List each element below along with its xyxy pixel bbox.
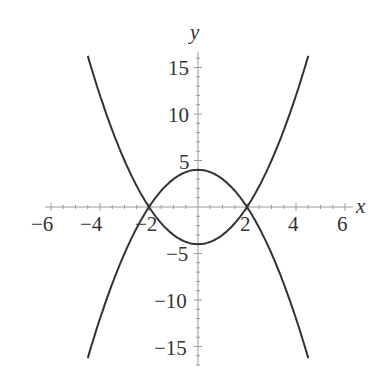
y-tick-label: 5: [179, 152, 190, 173]
plot-area: [0, 0, 381, 392]
y-tick-label: 10: [168, 105, 189, 126]
x-tick-label: 2: [240, 214, 251, 235]
x-tick-label: 6: [337, 214, 348, 235]
y-tick-label: −10: [154, 291, 187, 312]
y-tick-label: 15: [168, 58, 189, 79]
y-axis-label: y: [190, 22, 199, 43]
x-tick-label: −6: [31, 214, 53, 235]
x-tick-label: −2: [135, 214, 157, 235]
x-axis-label: x: [356, 196, 365, 217]
x-tick-label: 4: [288, 214, 299, 235]
y-tick-label: −15: [154, 338, 187, 359]
x-tick-label: −4: [80, 214, 102, 235]
y-tick-label: −5: [166, 244, 188, 265]
